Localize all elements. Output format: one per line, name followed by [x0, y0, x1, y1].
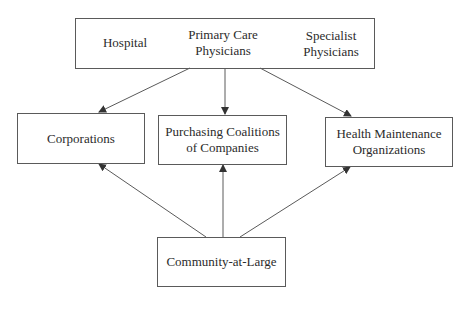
purchasing-coalitions-box: Purchasing Coalitions of Companies — [158, 115, 287, 165]
community-box: Community-at-Large — [157, 237, 286, 287]
arrow-providers-to-corporations — [99, 68, 190, 112]
primary-care-physicians-label: Primary Care Physicians — [188, 27, 258, 59]
arrow-community-to-corporations — [99, 164, 206, 237]
corporations-box: Corporations — [17, 113, 145, 164]
arrow-providers-to-hmo — [260, 68, 351, 116]
purchasing-coalitions-label: Purchasing Coalitions of Companies — [165, 124, 279, 156]
community-label: Community-at-Large — [166, 254, 276, 270]
hmo-label: Health Maintenance Organizations — [336, 126, 441, 158]
hmo-box: Health Maintenance Organizations — [325, 117, 453, 167]
specialist-physicians-label: Specialist Physicians — [303, 28, 359, 60]
arrow-community-to-hmo — [240, 167, 350, 237]
corporations-label: Corporations — [47, 131, 115, 147]
hospital-label: Hospital — [103, 35, 147, 51]
